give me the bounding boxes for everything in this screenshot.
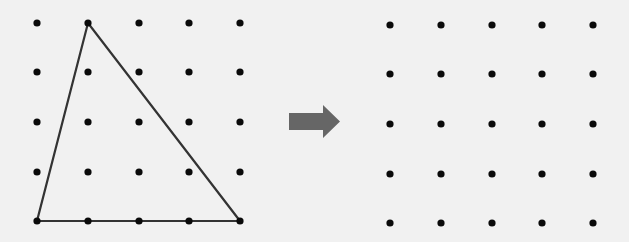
left-grid-dot-r0-c2: [135, 19, 142, 26]
left-grid-dot-r3-c4: [236, 168, 243, 175]
right-grid-dot-r4-c0: [386, 219, 393, 226]
right-grid-dot-r4-c3: [538, 219, 545, 226]
left-grid-dot-r0-c3: [185, 19, 192, 26]
left-grid-dot-r4-c2: [135, 217, 142, 224]
left-grid-dot-r0-c1: [84, 19, 91, 26]
left-grid-dot-r0-c0: [33, 19, 40, 26]
left-grid-dot-r1-c0: [33, 68, 40, 75]
left-grid-dot-r1-c2: [135, 68, 142, 75]
right-grid-dot-r2-c2: [488, 120, 495, 127]
right-grid-dot-r1-c3: [538, 70, 545, 77]
right-grid-dot-r2-c4: [589, 120, 596, 127]
right-grid-dot-r2-c1: [437, 120, 444, 127]
right-grid-dot-r0-c4: [589, 21, 596, 28]
left-grid-dot-r3-c2: [135, 168, 142, 175]
right-grid-dot-r0-c3: [538, 21, 545, 28]
left-grid-dot-r2-c2: [135, 118, 142, 125]
right-grid-dot-r0-c0: [386, 21, 393, 28]
left-grid-dot-r4-c3: [185, 217, 192, 224]
right-grid-dot-r0-c1: [437, 21, 444, 28]
right-grid-dot-r4-c2: [488, 219, 495, 226]
left-grid-dot-r4-c0: [33, 217, 40, 224]
left-grid-dot-r2-c3: [185, 118, 192, 125]
right-grid-dot-r3-c0: [386, 170, 393, 177]
right-grid-dot-r3-c1: [437, 170, 444, 177]
left-grid-dot-r1-c4: [236, 68, 243, 75]
left-grid-dot-r4-c1: [84, 217, 91, 224]
left-grid-dot-r2-c4: [236, 118, 243, 125]
left-grid-dot-r3-c0: [33, 168, 40, 175]
right-grid-dot-r0-c2: [488, 21, 495, 28]
right-grid-dot-r3-c4: [589, 170, 596, 177]
left-grid-dot-r2-c1: [84, 118, 91, 125]
left-grid-dot-r3-c1: [84, 168, 91, 175]
right-grid-dot-r2-c0: [386, 120, 393, 127]
right-dot-grid: [386, 21, 596, 226]
right-arrow-icon: [289, 105, 340, 138]
right-grid-dot-r3-c2: [488, 170, 495, 177]
left-grid-dot-r1-c1: [84, 68, 91, 75]
left-grid-dot-r2-c0: [33, 118, 40, 125]
left-grid-dot-r4-c4: [236, 217, 243, 224]
right-grid-dot-r1-c0: [386, 70, 393, 77]
right-grid-dot-r1-c1: [437, 70, 444, 77]
left-grid-dot-r1-c3: [185, 68, 192, 75]
left-grid-dot-r3-c3: [185, 168, 192, 175]
right-grid-dot-r4-c1: [437, 219, 444, 226]
right-grid-dot-r1-c4: [589, 70, 596, 77]
left-dot-grid-overlay: [33, 19, 243, 224]
right-grid-dot-r3-c3: [538, 170, 545, 177]
right-grid-dot-r2-c3: [538, 120, 545, 127]
left-grid-dot-r0-c4: [236, 19, 243, 26]
right-grid-dot-r1-c2: [488, 70, 495, 77]
right-grid-dot-r4-c4: [589, 219, 596, 226]
transformation-diagram: [0, 0, 629, 242]
